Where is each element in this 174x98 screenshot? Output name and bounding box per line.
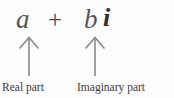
real-part-arrow-up-icon (18, 35, 40, 77)
real-part-label: Real part (2, 81, 44, 94)
formula-expression: a + b i (0, 4, 174, 36)
complex-number-annotated-figure: a + b i Real part Imaginary part (0, 0, 174, 98)
imaginary-part-arrow-up-icon (84, 35, 106, 77)
imaginary-part-label: Imaginary part (77, 81, 145, 94)
real-part-symbol: a (16, 4, 30, 34)
plus-operator: + (48, 5, 62, 35)
imaginary-coefficient-symbol: b (84, 4, 98, 34)
imaginary-unit-symbol: i (103, 3, 110, 33)
